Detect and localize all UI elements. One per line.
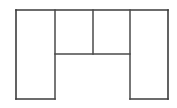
right-column-region [130,10,168,99]
shape-diagram [0,0,177,108]
top-center-right-region [93,10,130,54]
top-center-left-region [55,10,93,54]
left-column-region [16,10,55,99]
diagram-canvas [0,0,177,108]
